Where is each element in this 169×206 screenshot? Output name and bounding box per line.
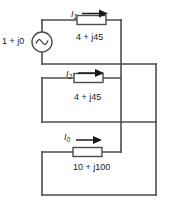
circuit-diagram: 1 + j0 I1 I2 I0 4 + j45 4 + j45 10 + j10… [0,0,169,206]
current-label-branch-1: I1 [71,10,77,19]
current-label-branch-0: I0 [64,133,70,142]
impedance-label-branch-2: 4 + j45 [74,93,101,102]
impedance-box-branch-0 [73,148,102,157]
impedance-label-branch-0: 10 + j100 [73,163,110,172]
source-voltage-label: 1 + j0 [2,37,24,46]
current-label-branch-2: I2 [66,70,72,79]
impedance-label-branch-1: 4 + j45 [76,33,103,42]
impedance-box-branch-1 [77,16,106,25]
current-arrow-branch-0 [76,136,102,144]
circuit-schematic-svg [0,0,169,206]
